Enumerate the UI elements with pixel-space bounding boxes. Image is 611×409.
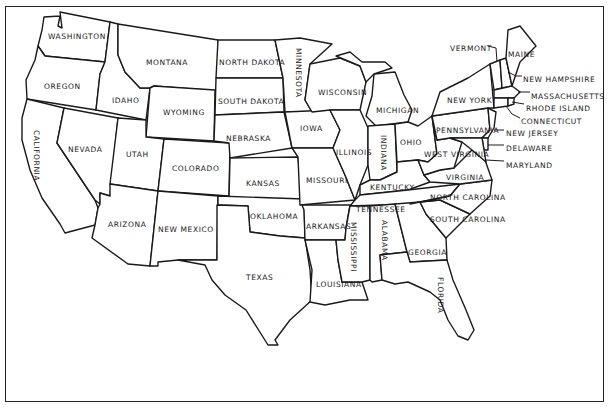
state-label-maryland: Maryland <box>506 161 553 170</box>
state-label-missouri: Missouri <box>306 176 348 185</box>
state-label-mississippi: Mississippi <box>349 222 358 272</box>
state-label-new-mexico: New Mexico <box>158 225 214 234</box>
state-label-kentucky: Kentucky <box>370 183 415 192</box>
state-label-tennessee: Tennessee <box>356 205 406 214</box>
state-label-connecticut: Connecticut <box>521 117 582 126</box>
state-label-montana: Montana <box>146 58 188 67</box>
state-label-minnesota: Minnesota <box>294 48 303 98</box>
state-label-vermont: Vermont <box>450 44 492 53</box>
state-label-rhode-island: Rhode Island <box>526 104 591 113</box>
state-label-louisiana: Louisiana <box>316 280 362 289</box>
state-label-colorado: Colorado <box>172 164 219 173</box>
state-label-pennsylvania: Pennsylvania <box>436 126 499 135</box>
state-label-new-jersey: New Jersey <box>506 129 558 138</box>
state-label-new-hampshire: New Hampshire <box>523 75 595 84</box>
state-label-alabama: Alabama <box>380 220 389 261</box>
leader-maryland <box>486 160 504 161</box>
us-map-outline <box>0 0 611 409</box>
state-label-oklahoma: Oklahoma <box>250 212 298 221</box>
state-kansas[interactable] <box>229 157 302 199</box>
state-label-arkansas: Arkansas <box>306 222 351 231</box>
state-label-south-dakota: South Dakota <box>218 97 284 106</box>
state-label-north-dakota: North Dakota <box>219 58 285 67</box>
state-label-maine: Maine <box>508 50 535 59</box>
state-label-south-carolina: South Carolina <box>430 215 506 224</box>
state-label-georgia: Georgia <box>408 248 447 257</box>
state-label-wisconsin: Wisconsin <box>318 88 367 97</box>
state-label-virginia: Virginia <box>446 173 484 182</box>
state-label-nevada: Nevada <box>68 145 103 154</box>
state-newyork[interactable] <box>432 64 494 116</box>
state-label-north-carolina: North Carolina <box>430 193 506 202</box>
state-label-florida: Florida <box>436 277 445 314</box>
state-label-arizona: Arizona <box>108 220 147 229</box>
state-label-oregon: Oregon <box>44 82 81 91</box>
leader-connecticut <box>506 106 520 118</box>
state-label-nebraska: Nebraska <box>226 134 271 143</box>
state-label-michigan: Michigan <box>376 106 419 115</box>
state-label-massachusetts: Massachusetts <box>531 92 605 101</box>
state-label-texas: Texas <box>246 273 273 282</box>
state-label-delaware: Delaware <box>506 144 552 153</box>
state-label-illinois: Illinois <box>336 148 372 157</box>
state-michigan[interactable] <box>366 72 412 126</box>
state-label-washington: Washington <box>48 32 106 41</box>
state-label-utah: Utah <box>126 150 149 159</box>
state-label-west-virginia: West Virginia <box>424 150 489 159</box>
state-label-ohio: Ohio <box>400 138 422 147</box>
state-label-kansas: Kansas <box>246 179 280 188</box>
state-label-wyoming: Wyoming <box>163 108 205 117</box>
state-label-california: California <box>32 130 41 181</box>
state-wisconsin[interactable] <box>305 58 366 112</box>
state-florida[interactable] <box>380 252 474 340</box>
state-label-new-york: New York <box>447 96 492 105</box>
state-label-iowa: Iowa <box>300 124 323 133</box>
state-label-idaho: Idaho <box>112 96 140 105</box>
state-label-indiana: Indiana <box>379 135 388 171</box>
